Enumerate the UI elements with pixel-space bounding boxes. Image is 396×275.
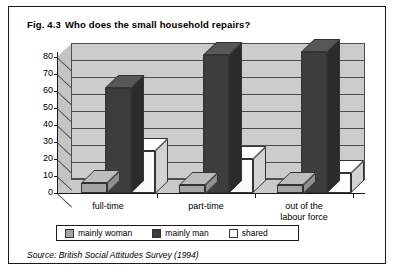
source-note: Source: British Social Attitudes Survey … xyxy=(27,250,199,260)
legend-label: shared xyxy=(242,228,268,238)
legend-label: mainly woman xyxy=(78,228,132,238)
y-axis-tick-label: 80 xyxy=(43,51,53,61)
chart-3d-box: full-timepart-timeout of the labour forc… xyxy=(57,43,365,193)
legend-label: mainly man xyxy=(165,228,208,238)
legend-swatch xyxy=(65,229,74,238)
y-axis-tick-label: 0 xyxy=(48,187,53,197)
bar-mainly-woman-2 xyxy=(179,185,205,194)
x-axis-category-label: out of the labour force xyxy=(259,201,349,222)
legend-item: shared xyxy=(229,228,268,238)
x-axis-tick-mark xyxy=(255,193,256,198)
x-axis-tick-mark xyxy=(353,193,354,198)
y-axis-tick-label: 40 xyxy=(43,119,53,129)
x-axis-category-label: full-time xyxy=(63,201,153,212)
figure-title-text: Who does the small household repairs? xyxy=(65,19,251,30)
y-axis-tick-label: 10 xyxy=(43,170,53,180)
x-axis-tick-mark xyxy=(157,193,158,198)
bar-face xyxy=(179,185,205,194)
figure-frame: Fig. 4.3Who does the small household rep… xyxy=(8,6,386,264)
y-axis-tick-label: 60 xyxy=(43,85,53,95)
y-axis-tick-label: 50 xyxy=(43,102,53,112)
bar-face xyxy=(81,183,107,193)
legend-swatch xyxy=(152,229,161,238)
bar-mainly-woman-3 xyxy=(277,185,303,194)
x-axis-category-label: part-time xyxy=(161,201,251,212)
figure-number: Fig. 4.3 xyxy=(27,19,61,30)
y-axis-tick-label: 70 xyxy=(43,68,53,78)
bar-mainly-woman-1 xyxy=(81,183,107,193)
bar-side xyxy=(131,75,144,193)
chart-legend: mainly womanmainly manshared xyxy=(56,225,299,241)
chart-plot-area: 01020304050607080 full-timepart-timeout … xyxy=(19,33,377,203)
bar-side xyxy=(229,43,242,193)
y-axis-tick-label: 30 xyxy=(43,136,53,146)
y-axis-line xyxy=(57,52,58,194)
legend-item: mainly man xyxy=(152,228,208,238)
x-axis-line xyxy=(57,193,365,194)
legend-item-list: mainly womanmainly manshared xyxy=(57,226,298,240)
legend-item: mainly woman xyxy=(65,228,132,238)
bar-side xyxy=(327,39,340,193)
bar-face xyxy=(277,185,303,194)
legend-swatch xyxy=(229,229,238,238)
y-axis-tick-label: 20 xyxy=(43,153,53,163)
figure-title: Fig. 4.3Who does the small household rep… xyxy=(27,19,251,30)
